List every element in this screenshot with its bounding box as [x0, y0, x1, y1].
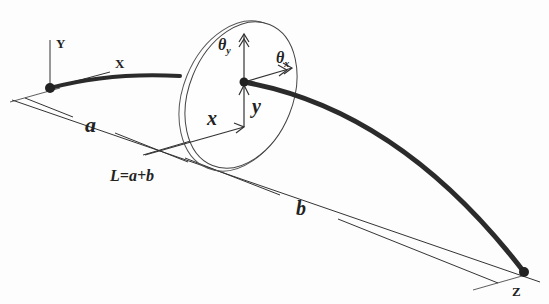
diagram-graphics [0, 0, 549, 304]
theta-y-label: θy [218, 37, 231, 56]
disk-center-node [240, 78, 249, 87]
global-y-label: Y [56, 37, 65, 50]
total-length-label: L=a+b [110, 168, 154, 184]
local-y-label: y [252, 96, 261, 116]
theta-x-label: θx [276, 50, 289, 69]
right-support-node [519, 267, 529, 277]
dimension-line-b2 [338, 219, 498, 283]
theta-x-subscript: x [284, 58, 289, 69]
left-support-node [45, 83, 55, 93]
dimension-line-a [25, 98, 73, 117]
theta-y-subscript: y [226, 45, 230, 56]
dimension-line-a2 [115, 133, 188, 162]
segment-b-label: b [296, 198, 306, 218]
rotor-shaft-diagram: Y X Z a b L=a+b x y θy θx [0, 0, 549, 304]
global-z-label: Z [512, 285, 521, 298]
local-x-label: x [207, 108, 217, 128]
segment-a-label: a [85, 114, 96, 136]
global-x-label: X [115, 57, 124, 70]
shaft-left-segment [50, 75, 180, 88]
